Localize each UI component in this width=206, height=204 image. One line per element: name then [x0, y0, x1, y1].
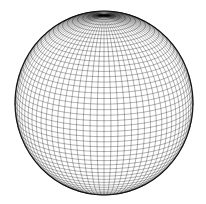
figure-canvas — [0, 0, 206, 204]
wireframe-sphere — [0, 0, 206, 204]
